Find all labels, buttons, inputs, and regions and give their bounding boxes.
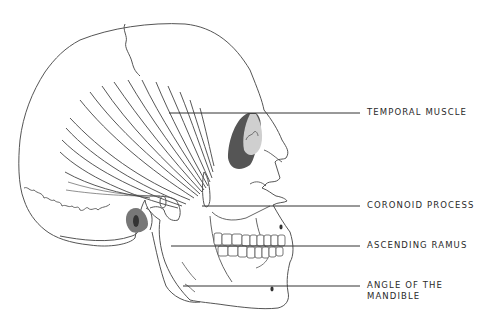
- label-temporal-muscle: TEMPORAL MUSCLE: [367, 107, 467, 118]
- cranium: [19, 24, 293, 309]
- label-angle-of-mandible-line2: MANDIBLE: [367, 291, 420, 302]
- facial-bones: [210, 150, 282, 282]
- ear-canal: [126, 208, 152, 233]
- orbit: [228, 113, 262, 169]
- infraorbital-foramen: [279, 225, 282, 230]
- label-angle-of-mandible-line1: ANGLE OF THE: [367, 280, 443, 291]
- label-coronoid-process: CORONOID PROCESS: [367, 200, 474, 211]
- mental-foramen: [270, 287, 273, 292]
- label-ascending-ramus: ASCENDING RAMUS: [367, 240, 467, 251]
- temporal-muscle: [60, 80, 214, 208]
